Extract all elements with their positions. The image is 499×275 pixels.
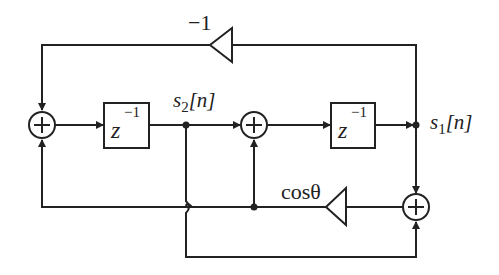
s2-base: s [173,88,181,112]
s1-sub: 1 [438,121,446,137]
wire-to-left-adder [42,140,192,207]
s2-arg: [n] [189,88,216,112]
s2-node [183,122,190,129]
s2-label: s2[n] [173,88,216,116]
gain-cos-theta-triangle [326,188,346,225]
s1-label: s1[n] [430,110,473,138]
junction-node [251,204,258,211]
s1-base: s [430,110,438,134]
gain-minus-one-triangle [210,28,232,62]
s2-sub: 2 [181,99,189,115]
gain-top-label: −1 [188,10,211,36]
delay1-exp: −1 [124,104,140,121]
signal-flow-diagram: −1 z −1 z −1 s2[n] s1[n] cosθ [0,0,499,275]
s1-node [413,122,420,129]
delay2-exp: −1 [351,104,367,121]
diagram-canvas [0,0,499,275]
delay2-z: z [338,117,347,144]
gain-cos-label: cosθ [281,179,321,205]
s1-arg: [n] [446,110,473,134]
delay1-z: z [111,117,120,144]
